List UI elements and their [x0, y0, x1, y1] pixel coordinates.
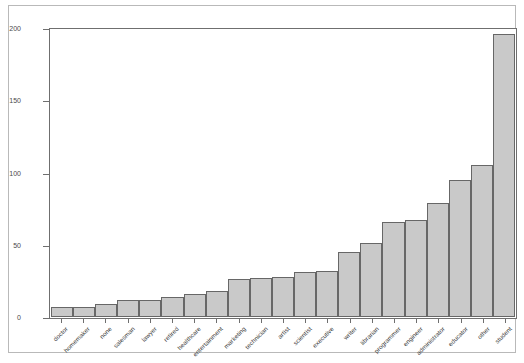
bar: [427, 203, 449, 317]
x-axis-tick: [105, 319, 106, 323]
x-axis-tick: [150, 319, 151, 323]
x-axis-tick-label: writer: [341, 325, 357, 341]
x-axis-tick: [327, 319, 328, 323]
bar-series: [51, 30, 515, 317]
x-axis-tick-label: educator: [446, 325, 469, 348]
x-axis-tick-label: lawyer: [140, 325, 158, 343]
x-axis-tick-label: other: [475, 325, 490, 340]
bar: [51, 307, 73, 317]
bar: [250, 278, 272, 317]
bar: [272, 277, 294, 317]
chart-screenshot: 050100150200 doctorhomemakernonesalesman…: [0, 0, 524, 363]
bar: [228, 279, 250, 317]
bar: [184, 294, 206, 317]
x-axis-tick: [438, 319, 439, 323]
x-axis-tick: [461, 319, 462, 323]
x-axis-tick: [416, 319, 417, 323]
x-axis-tick: [83, 319, 84, 323]
bar: [206, 291, 228, 317]
x-axis-tick: [261, 319, 262, 323]
y-axis-tick-label: 150: [0, 97, 21, 104]
bar: [73, 307, 95, 317]
x-axis-tick-label: artist: [276, 325, 291, 340]
bar: [449, 180, 471, 317]
x-axis-tick-label: technician: [243, 325, 268, 350]
figure-frame: 050100150200 doctorhomemakernonesalesman…: [8, 5, 516, 353]
x-axis-tick: [350, 319, 351, 323]
x-axis-tick: [305, 319, 306, 323]
bar: [360, 243, 382, 317]
bar: [405, 220, 427, 317]
x-axis-tick: [216, 319, 217, 323]
bar: [95, 304, 117, 317]
bar: [161, 297, 183, 317]
x-axis-tick-label: executive: [311, 325, 335, 349]
x-axis-tick: [283, 319, 284, 323]
x-axis-tick: [394, 319, 395, 323]
bar: [493, 34, 515, 317]
x-axis-tick: [505, 319, 506, 323]
x-axis-tick: [128, 319, 129, 323]
x-axis-tick: [239, 319, 240, 323]
x-axis-tick-label: doctor: [52, 325, 70, 343]
x-axis-tick: [61, 319, 62, 323]
x-axis-tick-label: student: [493, 325, 513, 345]
x-axis-tick: [372, 319, 373, 323]
x-axis-tick: [194, 319, 195, 323]
x-axis-tick-label: retired: [162, 325, 180, 343]
bar: [471, 165, 493, 317]
bar: [316, 271, 338, 317]
x-axis-tick: [172, 319, 173, 323]
x-axis-tick-label: none: [98, 325, 113, 340]
x-axis-tick: [483, 319, 484, 323]
y-axis-tick-label: 200: [0, 25, 21, 32]
plot-area: [49, 28, 517, 319]
bar: [382, 222, 404, 317]
y-axis-tick-label: 50: [0, 242, 21, 249]
y-axis-tick-label: 100: [0, 170, 21, 177]
x-axis-tick-label: salesman: [111, 325, 135, 349]
x-axis-tick-label: marketing: [222, 325, 247, 350]
bar: [117, 300, 139, 317]
bar: [139, 300, 161, 317]
bar: [294, 272, 316, 317]
x-axis-tick-label: librarian: [359, 325, 380, 346]
y-axis-tick-label: 0: [0, 314, 21, 321]
bar: [338, 252, 360, 317]
